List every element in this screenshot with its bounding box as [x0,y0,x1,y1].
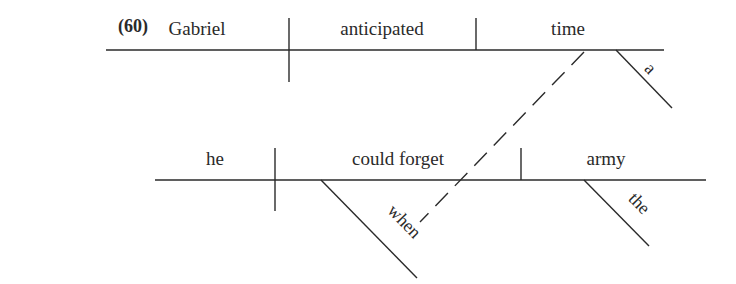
relative-connector-dashed [420,52,584,222]
word-army: army [586,148,625,170]
word-could-forget: could forget [352,148,444,170]
modifier-line-a [616,50,672,108]
word-time: time [551,18,585,40]
diagram-lines [0,0,736,284]
word-gabriel: Gabriel [169,18,226,40]
word-he: he [206,148,224,170]
word-anticipated: anticipated [340,18,423,40]
